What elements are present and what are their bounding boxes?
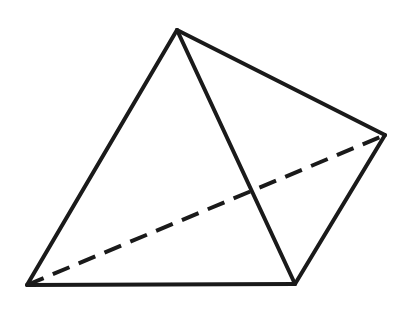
edge-apex-to-bottom-right (177, 30, 295, 284)
tetrahedron-diagram (0, 0, 405, 322)
edge-apex-to-right (177, 30, 385, 135)
edge-bottom-left-to-bottom-right (27, 284, 295, 285)
edge-apex-to-bottom-left (27, 30, 177, 285)
edge-bottom-left-to-right-hidden (27, 135, 385, 285)
tetrahedron-svg (0, 0, 405, 322)
edge-bottom-right-to-right (295, 135, 385, 284)
